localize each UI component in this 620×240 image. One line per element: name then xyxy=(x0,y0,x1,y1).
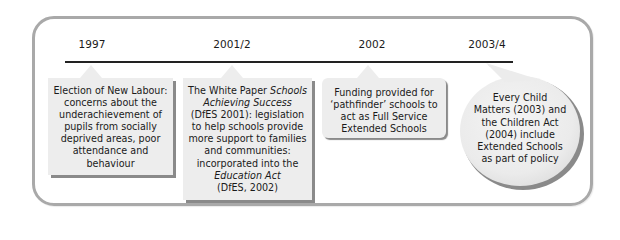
event-text-line: Extended Schools xyxy=(460,141,580,153)
event-bubble-2003-4: Every Child Matters (2003) and the Child… xyxy=(460,92,580,166)
event-text-line: as part of policy xyxy=(460,153,580,165)
event-text-line: Matters (2003) and xyxy=(460,104,580,116)
event-text-line: the Children Act xyxy=(460,117,580,129)
event-text-line: Every Child xyxy=(460,92,580,104)
event-text-line: (2004) include xyxy=(460,129,580,141)
